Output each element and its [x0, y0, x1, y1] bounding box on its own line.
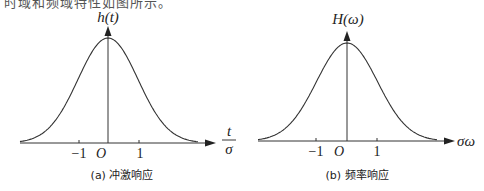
tick-label-neg-1: −1	[72, 146, 87, 161]
caption-b: (b) 频率响应	[325, 166, 388, 182]
x-axis-label: σω	[457, 133, 475, 149]
panel-b-frequency-response: H(ω) σω −1 O 1	[258, 11, 475, 159]
y-axis-arrow-icon	[344, 31, 351, 41]
x-axis-label-numerator: t	[227, 123, 232, 139]
tick-label-pos-1: 1	[374, 144, 381, 159]
y-axis-label: h(t)	[97, 9, 119, 26]
origin-label: O	[96, 146, 106, 161]
y-axis-label: H(ω)	[331, 11, 363, 28]
x-axis-label-denominator: σ	[225, 141, 233, 157]
tick-label-neg-1: −1	[309, 144, 324, 159]
origin-label: O	[334, 144, 344, 159]
panel-a-impulse-response: h(t) t σ −1 O 1	[20, 9, 236, 161]
figure-canvas: h(t) t σ −1 O 1 H(ω) σω −1 O 1	[0, 0, 484, 191]
gaussian-curve	[20, 38, 198, 142]
x-axis-arrow-icon	[444, 138, 455, 145]
x-axis-arrow-icon	[205, 140, 216, 147]
tick-label-pos-1: 1	[137, 146, 144, 161]
caption-a: (a) 冲激响应	[91, 166, 154, 182]
y-axis-arrow-icon	[105, 26, 112, 36]
